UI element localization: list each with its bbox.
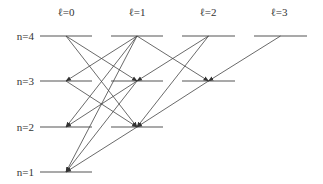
column-label-l3: ℓ=3 (271, 6, 288, 18)
row-label-n2: n=2 (17, 121, 34, 133)
transition-arrow (66, 127, 137, 172)
energy-levels (40, 36, 307, 172)
row-label-n4: n=4 (17, 30, 35, 42)
transition-arrow (137, 81, 209, 127)
row-label-n3: n=3 (17, 75, 35, 87)
column-label-l0: ℓ=0 (58, 6, 75, 18)
column-label-l2: ℓ=2 (200, 6, 217, 18)
row-label-n1: n=1 (17, 166, 34, 178)
energy-level-diagram: ℓ=0 ℓ=1 ℓ=2 ℓ=3 n=4 n=3 n=2 n=1 (0, 0, 323, 184)
column-label-l1: ℓ=1 (129, 6, 146, 18)
transition-arrow (209, 36, 281, 81)
transition-arrows (66, 36, 281, 172)
